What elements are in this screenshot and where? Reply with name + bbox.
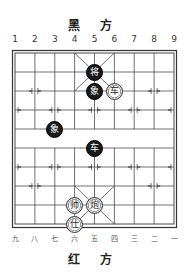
file-label: 一: [166, 233, 182, 243]
red-general-piece[interactable]: 帅: [66, 197, 83, 214]
file-label: 四: [106, 233, 122, 243]
black-general-piece[interactable]: 将: [86, 64, 103, 81]
red-side-label: 红 方: [0, 250, 188, 267]
red-advisor-piece[interactable]: 仕: [66, 216, 83, 233]
bottom-file-numbers: 九 八 七 六 五 四 三 二 一: [0, 233, 188, 245]
red-chariot-piece[interactable]: 车: [106, 83, 123, 100]
black-elephant-piece[interactable]: 象: [46, 121, 63, 138]
black-chariot-piece[interactable]: 车: [86, 140, 103, 157]
file-label: 六: [67, 233, 83, 243]
file-label: 九: [7, 233, 23, 243]
file-label: 五: [87, 233, 103, 243]
file-label: 二: [146, 233, 162, 243]
file-label: 三: [126, 233, 142, 243]
red-cannon-piece[interactable]: 炮: [86, 197, 103, 214]
file-label: 八: [27, 233, 43, 243]
file-label: 七: [47, 233, 63, 243]
black-elephant-piece[interactable]: 象: [86, 83, 103, 100]
